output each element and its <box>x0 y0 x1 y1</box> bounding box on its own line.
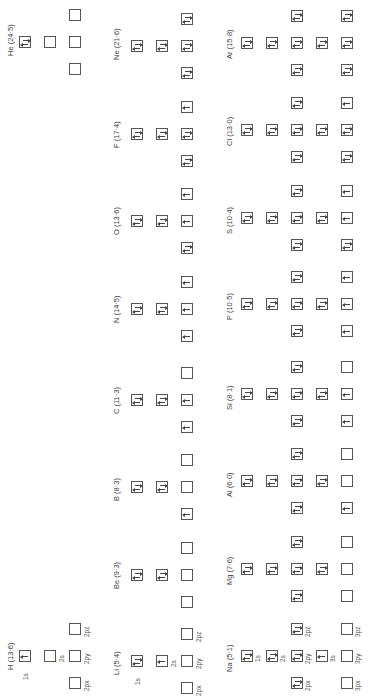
orbital-label-2py: 2py <box>83 654 90 664</box>
F-2s-orbital-box <box>156 128 168 140</box>
spin-up-arrow-icon <box>295 14 301 15</box>
orbital-label-3px: 3px <box>354 681 361 691</box>
spin-down-arrow-icon <box>269 306 275 307</box>
spin-down-arrow-icon <box>134 402 140 403</box>
S-3px-orbital-box <box>341 239 353 251</box>
spin-down-arrow-icon <box>294 45 300 46</box>
spin-up-arrow-icon <box>135 44 141 45</box>
orbital-label-3s: 3s <box>329 655 336 662</box>
spin-up-arrow-icon <box>345 243 351 244</box>
single-electron-arrow-icon <box>344 277 350 278</box>
spin-up-arrow-icon <box>135 573 141 574</box>
spin-down-arrow-icon <box>159 489 165 490</box>
S-2s-orbital-box <box>266 212 278 224</box>
P-3s-orbital-box <box>316 298 328 310</box>
Al-1s-orbital-box <box>241 475 253 487</box>
Ar-3s-orbital-box <box>316 37 328 49</box>
C-2py-orbital-box <box>181 394 193 406</box>
spin-up-arrow-icon <box>295 627 301 628</box>
spin-down-arrow-icon <box>184 250 190 251</box>
He-2py-orbital-box <box>69 36 81 48</box>
Mg-2s-orbital-box <box>266 563 278 575</box>
Li-2pz-orbital-box <box>181 628 193 640</box>
Si-3pz-orbital-box <box>341 361 353 373</box>
P-2pz-orbital-box <box>291 271 303 283</box>
element-label-o: O (13·6) <box>112 207 121 235</box>
spin-up-arrow-icon <box>295 189 301 190</box>
spin-up-arrow-icon <box>135 132 141 133</box>
Si-2py-orbital-box <box>291 388 303 400</box>
spin-up-arrow-icon <box>295 594 301 595</box>
Na-3px-orbital-box <box>341 677 353 689</box>
spin-up-arrow-icon <box>320 41 326 42</box>
Al-2px-orbital-box <box>291 502 303 514</box>
element-label-ne: Ne (21·6) <box>112 28 121 60</box>
spin-down-arrow-icon <box>159 48 165 49</box>
H-2s-orbital-box <box>44 650 56 662</box>
C-1s-orbital-box <box>131 394 143 406</box>
Ar-2py-orbital-box <box>291 37 303 49</box>
single-electron-arrow-icon <box>184 309 190 310</box>
single-electron-arrow-icon <box>344 103 350 104</box>
N-2pz-orbital-box <box>181 276 193 288</box>
spin-up-arrow-icon <box>295 479 301 480</box>
spin-down-arrow-icon <box>269 220 275 221</box>
S-3pz-orbital-box <box>341 185 353 197</box>
spin-up-arrow-icon <box>185 71 191 72</box>
spin-down-arrow-icon <box>294 396 300 397</box>
Cl-1s-orbital-box <box>241 124 253 136</box>
orbital-label-3py: 3py <box>354 654 361 664</box>
spin-down-arrow-icon <box>319 220 325 221</box>
orbital-label-2pz: 2pz <box>195 632 202 642</box>
B-1s-orbital-box <box>131 481 143 493</box>
Na-3pz-orbital-box <box>341 623 353 635</box>
Li-2s-orbital-box <box>156 655 168 667</box>
element-label-he: He (24·5) <box>6 24 15 56</box>
spin-up-arrow-icon <box>185 132 191 133</box>
Mg-2pz-orbital-box <box>291 536 303 548</box>
spin-up-arrow-icon <box>245 41 251 42</box>
spin-up-arrow-icon <box>135 659 141 660</box>
Mg-3pz-orbital-box <box>341 536 353 548</box>
Li-2px-orbital-box <box>181 682 193 694</box>
spin-down-arrow-icon <box>344 45 350 46</box>
Si-2s-orbital-box <box>266 388 278 400</box>
O-2s-orbital-box <box>156 215 168 227</box>
Na-2pz-orbital-box <box>291 623 303 635</box>
Be-2px-orbital-box <box>181 596 193 608</box>
spin-down-arrow-icon <box>159 311 165 312</box>
orbital-label-1s: 1s <box>22 673 29 680</box>
spin-down-arrow-icon <box>294 105 300 106</box>
spin-down-arrow-icon <box>294 18 300 19</box>
Cl-2s-orbital-box <box>266 124 278 136</box>
spin-down-arrow-icon <box>244 306 250 307</box>
spin-up-arrow-icon <box>270 302 276 303</box>
Ar-1s-orbital-box <box>241 37 253 49</box>
spin-up-arrow-icon <box>345 128 351 129</box>
Be-2py-orbital-box <box>181 569 193 581</box>
spin-down-arrow-icon <box>294 423 300 424</box>
Al-3pz-orbital-box <box>341 448 353 460</box>
spin-down-arrow-icon <box>319 306 325 307</box>
element-label-h: H (13·6) <box>6 642 15 670</box>
P-2py-orbital-box <box>291 298 303 310</box>
S-3py-orbital-box <box>341 212 353 224</box>
spin-down-arrow-icon <box>294 72 300 73</box>
element-label-cl: Cl (13·0) <box>225 117 234 146</box>
spin-up-arrow-icon <box>295 329 301 330</box>
Si-1s-orbital-box <box>241 388 253 400</box>
spin-up-arrow-icon <box>295 243 301 244</box>
O-2pz-orbital-box <box>181 188 193 200</box>
N-2py-orbital-box <box>181 303 193 315</box>
spin-up-arrow-icon <box>185 44 191 45</box>
spin-down-arrow-icon <box>159 223 165 224</box>
spin-down-arrow-icon <box>294 544 300 545</box>
P-2s-orbital-box <box>266 298 278 310</box>
spin-down-arrow-icon <box>269 658 275 659</box>
spin-up-arrow-icon <box>270 216 276 217</box>
element-label-ar: Ar (15·8) <box>225 29 234 59</box>
spin-up-arrow-icon <box>295 128 301 129</box>
spin-up-arrow-icon <box>245 567 251 568</box>
element-label-al: Al (6·0) <box>225 472 234 497</box>
spin-down-arrow-icon <box>244 483 250 484</box>
